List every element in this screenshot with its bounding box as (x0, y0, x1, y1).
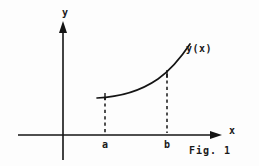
curve-label: y(x) (186, 44, 212, 54)
function-curve (97, 44, 190, 98)
figure-container: y x y(x) a b Fig. 1 (0, 0, 259, 166)
y-axis-label: y (62, 8, 69, 18)
tick-label-a: a (102, 140, 109, 150)
y-axis-arrowhead (59, 21, 67, 33)
x-axis-label: x (229, 126, 236, 136)
figure-drawing (0, 0, 259, 166)
figure-caption: Fig. 1 (189, 146, 231, 156)
tick-label-b: b (164, 140, 171, 150)
x-axis-arrowhead (210, 131, 222, 139)
